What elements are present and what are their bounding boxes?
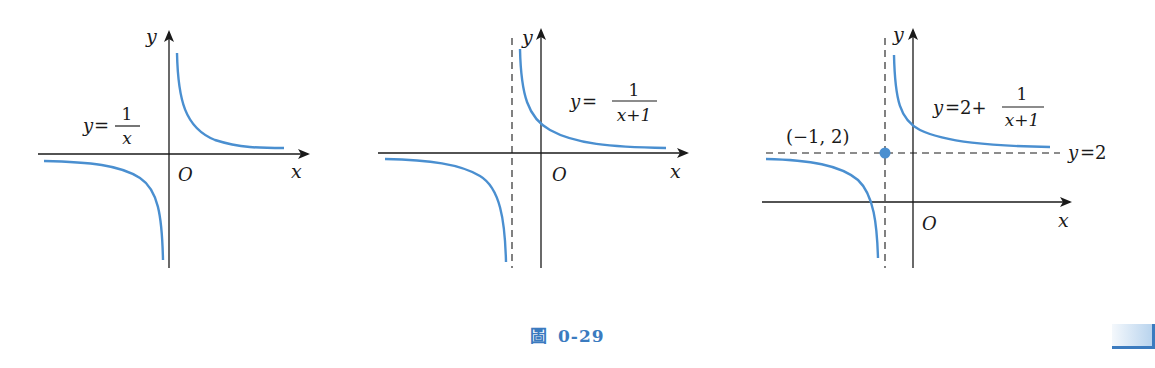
- center-point-label: (−1, 2): [786, 126, 849, 147]
- curve-branch-negative: [44, 161, 163, 260]
- svg-text:y: y: [1067, 142, 1079, 163]
- y-axis-label: y: [521, 26, 533, 48]
- graph-reciprocal: y x O y = 1 x: [38, 25, 308, 268]
- svg-text:y: y: [82, 115, 94, 136]
- x-axis-label: x: [670, 160, 681, 182]
- page-corner-tab: [1112, 324, 1155, 349]
- function-label: y =2+ 1 x+1: [932, 84, 1044, 130]
- svg-text:1: 1: [122, 104, 133, 124]
- svg-text:y: y: [569, 91, 581, 112]
- origin-label: O: [922, 213, 937, 234]
- svg-text:x: x: [122, 128, 132, 148]
- function-label: y = 1 x: [82, 104, 140, 148]
- x-axis-label: x: [291, 160, 302, 182]
- svg-text:x+1: x+1: [1005, 110, 1040, 130]
- svg-text:=2: =2: [1080, 142, 1107, 163]
- graph-shifted-left: y x O y = 1 x+1: [378, 26, 687, 268]
- svg-text:=2+: =2+: [945, 97, 987, 118]
- function-graphs-figure: y x O y = 1 x y x O y = 1 x+1: [0, 0, 1155, 368]
- svg-text:x+1: x+1: [617, 105, 652, 125]
- svg-text:y: y: [932, 97, 944, 118]
- curve-branch-positive: [177, 53, 284, 148]
- curve-branch-left: [766, 159, 878, 258]
- svg-text:1: 1: [629, 80, 640, 100]
- caption-number: 0-29: [558, 326, 605, 346]
- graph-shifted-left-up: y x O (−1, 2) y =2 y =2+ 1 x+1: [762, 23, 1107, 268]
- svg-text:=: =: [94, 115, 109, 136]
- x-axis-label: x: [1058, 209, 1069, 231]
- curve-branch-left: [385, 159, 506, 262]
- y-axis-label: y: [892, 23, 904, 45]
- y-axis-label: y: [145, 25, 157, 47]
- svg-text:=: =: [582, 91, 597, 112]
- center-point: [880, 148, 891, 159]
- origin-label: O: [178, 164, 193, 185]
- svg-text:1: 1: [1017, 84, 1028, 104]
- asymptote-label: y =2: [1067, 142, 1107, 163]
- figure-caption: 圖0-29: [530, 322, 605, 347]
- function-label: y = 1 x+1: [569, 80, 657, 125]
- caption-prefix: 圖: [530, 326, 548, 346]
- origin-label: O: [552, 164, 567, 185]
